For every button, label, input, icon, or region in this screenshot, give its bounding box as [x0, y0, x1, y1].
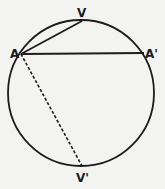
- label-v: V: [77, 6, 87, 20]
- chord-a-a-prime: [21, 53, 144, 54]
- label-a-prime: A': [145, 47, 158, 61]
- label-v-prime: V': [76, 171, 89, 185]
- circle: [8, 20, 154, 166]
- label-a: A: [10, 47, 20, 61]
- chord-a-v-prime-dashed: [21, 54, 82, 166]
- circle-chord-diagram: A V A' V': [0, 0, 165, 189]
